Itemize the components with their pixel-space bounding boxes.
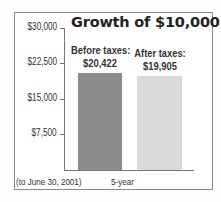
y-tick-label-7500: $7,500 (32, 127, 57, 138)
bar-label-before-taxes: Before taxes: $20,422 (71, 44, 129, 70)
y-tick-7500 (60, 134, 65, 135)
y-tick-label-22500: $22,500 (27, 56, 57, 67)
bar-category-after: After taxes: (131, 47, 189, 60)
y-tick-15000 (60, 99, 65, 100)
y-tick-label-15000: $15,000 (27, 92, 57, 103)
bar-category-before: Before taxes: (71, 44, 129, 57)
bar-value-after: $19,905 (131, 60, 189, 73)
x-category-label: 5-year (111, 176, 134, 187)
bar-after-taxes (137, 76, 182, 170)
period-footnote: (to June 30, 2001) (16, 176, 82, 187)
chart-title: Growth of $10,000 (71, 14, 220, 30)
bar-label-after-taxes: After taxes: $19,905 (131, 47, 189, 73)
y-tick-label-30000: $30,000 (27, 21, 57, 32)
x-axis (64, 170, 194, 171)
bar-value-before: $20,422 (71, 57, 129, 70)
y-tick-22500 (60, 63, 65, 64)
bar-before-taxes (78, 73, 122, 170)
y-tick-30000 (60, 28, 65, 29)
